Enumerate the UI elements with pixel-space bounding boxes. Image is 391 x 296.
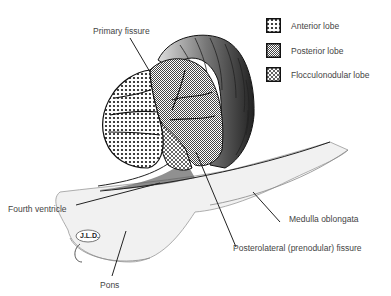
- legend-item-anterior: Anterior lobe: [266, 18, 339, 33]
- dots-pattern-icon: [266, 18, 281, 33]
- label-pons: Pons: [100, 281, 119, 290]
- leader-primary-fissure: [130, 38, 150, 72]
- legend-label: Posterior lobe: [291, 46, 343, 56]
- legend-item-flocculonodular: Flocculonodular lobe: [266, 67, 369, 82]
- label-primary-fissure: Primary fissure: [93, 27, 150, 36]
- legend-label: Flocculonodular lobe: [291, 70, 369, 80]
- crosshatch-pattern-icon: [266, 67, 281, 82]
- legend-label: Anterior lobe: [291, 21, 339, 31]
- label-fourth-ventricle: Fourth ventricle: [8, 205, 67, 214]
- leader-medulla: [253, 192, 280, 222]
- signature-text: J.L.D.: [80, 232, 99, 239]
- fine-hatch-pattern-icon: [266, 43, 281, 58]
- legend-item-posterior: Posterior lobe: [266, 43, 343, 58]
- label-posterolateral-fissure: Posterolateral (prenodular) fissure: [233, 244, 362, 253]
- label-medulla-oblongata: Medulla oblongata: [289, 215, 358, 224]
